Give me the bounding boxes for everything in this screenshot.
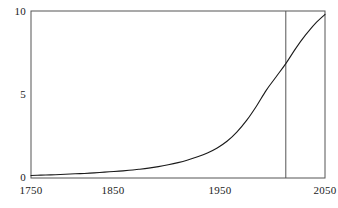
chart-figure: 10 5 0 1750 1850 1950 2050 bbox=[0, 0, 338, 208]
y-tick-5: 5 bbox=[6, 89, 26, 100]
x-tick-1750: 1750 bbox=[13, 185, 49, 196]
y-tick-0: 0 bbox=[6, 172, 26, 183]
plot-canvas bbox=[0, 0, 338, 208]
x-tick-2050: 2050 bbox=[307, 185, 338, 196]
x-tick-1950: 1950 bbox=[202, 185, 238, 196]
plot-frame bbox=[31, 11, 325, 178]
x-tick-1850: 1850 bbox=[95, 185, 131, 196]
y-tick-10: 10 bbox=[6, 6, 26, 17]
